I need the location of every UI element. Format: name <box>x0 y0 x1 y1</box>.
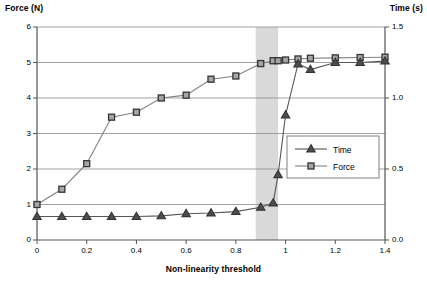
marker-square <box>158 95 164 101</box>
marker-triangle <box>182 209 190 216</box>
marker-square <box>307 55 313 61</box>
x-tick-label: 1.2 <box>320 246 350 255</box>
marker-triangle <box>132 212 140 219</box>
marker-square <box>34 202 40 208</box>
y-tick-label-right: 1.5 <box>392 22 414 31</box>
y-tick-label-left: 4 <box>15 93 31 102</box>
marker-square <box>275 58 281 64</box>
marker-triangle <box>107 212 115 219</box>
y-tick-label-left: 2 <box>15 164 31 173</box>
legend-label: Time <box>333 145 352 155</box>
marker-square <box>283 57 289 63</box>
y-tick-label-left: 1 <box>15 200 31 209</box>
x-tick-label: 0.8 <box>221 246 251 255</box>
marker-square <box>258 61 264 67</box>
marker-square <box>233 73 239 79</box>
legend-label: Force <box>333 162 355 172</box>
x-tick-label: 0.2 <box>72 246 102 255</box>
marker-square <box>183 92 189 98</box>
legend-box <box>287 136 379 178</box>
marker-triangle <box>83 212 91 219</box>
marker-triangle <box>281 111 289 118</box>
y-tick-label-right: 1.0 <box>392 93 414 102</box>
y-tick-label-left: 0 <box>15 235 31 244</box>
legend: TimeForce <box>287 136 379 178</box>
y-tick-label-left: 5 <box>15 58 31 67</box>
plot-area: TimeForce <box>0 0 427 281</box>
series-force <box>34 54 388 207</box>
marker-triangle <box>33 212 41 219</box>
x-tick-label: 1.4 <box>370 246 400 255</box>
x-tick-label: 0 <box>22 246 52 255</box>
x-tick-label: 0.4 <box>121 246 151 255</box>
marker-square <box>109 114 115 120</box>
y-tick-label-right: 0.5 <box>392 164 414 173</box>
marker-square <box>84 161 90 167</box>
marker-square <box>208 76 214 82</box>
y-tick-label-left: 6 <box>15 22 31 31</box>
marker-square <box>59 186 65 192</box>
chart-container: Force (N) Time (s) Non-linearity thresho… <box>0 0 427 281</box>
marker-triangle <box>58 212 66 219</box>
y-tick-label-left: 3 <box>15 129 31 138</box>
marker-square <box>308 163 314 169</box>
x-tick-label: 0.6 <box>171 246 201 255</box>
marker-square <box>133 109 139 115</box>
y-tick-label-right: 0.0 <box>392 235 414 244</box>
x-tick-label: 1 <box>271 246 301 255</box>
